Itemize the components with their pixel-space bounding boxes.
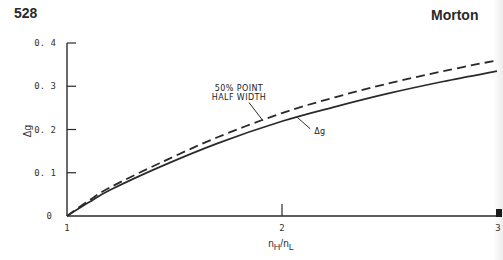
y-tick-label: 0 bbox=[47, 211, 52, 221]
y-tick-label: 0. 1 bbox=[34, 168, 56, 178]
y-tick-label: 0. 2 bbox=[34, 125, 56, 135]
y-axis-label: Δg bbox=[22, 125, 33, 137]
y-tick-label: 0. 3 bbox=[34, 81, 56, 91]
y-tick-label: 0. 4 bbox=[34, 38, 56, 48]
x-axis-label: nH/nL bbox=[268, 238, 293, 252]
series-line-delta-g bbox=[67, 71, 497, 216]
x-axis-end-mark bbox=[496, 209, 502, 217]
annotation-leader-line bbox=[249, 103, 263, 121]
annotation-label-line: HALF WIDTH bbox=[212, 93, 266, 102]
x-tick-label: 1 bbox=[64, 223, 69, 233]
axes bbox=[67, 43, 502, 217]
annotation-label-line: 50% POINT bbox=[215, 84, 263, 93]
x-tick-label: 3 bbox=[495, 223, 500, 233]
chart: 00. 10. 20. 30. 4 123 50% POINTHALF WIDT… bbox=[0, 0, 503, 260]
annotation-label: Δg bbox=[314, 127, 325, 136]
annotations: 50% POINTHALF WIDTHΔg bbox=[212, 84, 326, 136]
series-group bbox=[67, 60, 497, 216]
annotation-leader-line bbox=[297, 117, 310, 129]
y-ticks: 00. 10. 20. 30. 4 bbox=[34, 38, 76, 221]
x-ticks: 123 bbox=[64, 204, 500, 233]
x-tick-label: 2 bbox=[279, 223, 284, 233]
